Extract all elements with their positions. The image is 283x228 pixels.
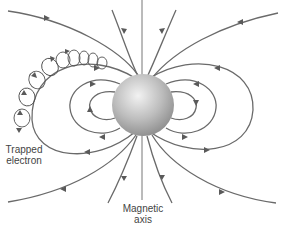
- label-trapped-electron: Trapped electron: [4, 144, 44, 166]
- field-loop-right-inner: [171, 92, 196, 120]
- label-line: axis: [120, 214, 166, 225]
- field-loop-left-inner: [90, 92, 115, 120]
- electron-helix: [14, 49, 107, 133]
- field-line: [152, 135, 276, 203]
- earth-sphere: [112, 74, 174, 136]
- label-line: Trapped: [4, 144, 44, 155]
- label-magnetic-axis: Magnetic axis: [120, 203, 166, 225]
- label-line: electron: [4, 155, 44, 166]
- field-line: [148, 10, 176, 75]
- magnetic-field-diagram: [0, 0, 283, 228]
- field-line: [112, 10, 138, 76]
- label-line: Magnetic: [120, 203, 166, 214]
